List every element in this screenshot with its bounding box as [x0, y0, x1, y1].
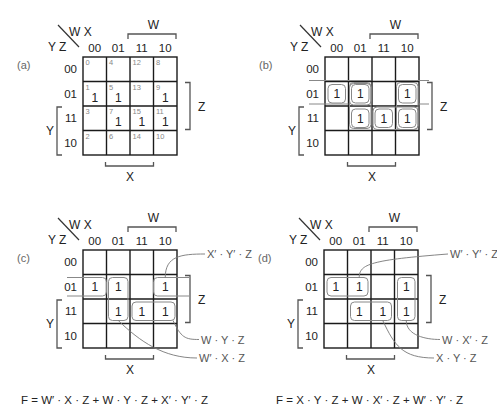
row-header: 11: [306, 305, 318, 317]
cell-value: 1: [91, 91, 98, 105]
term-label-w-y-z: W · Y · Z: [201, 334, 245, 346]
row-header: 11: [307, 112, 319, 124]
z-label: Z: [440, 100, 447, 114]
row-header: 01: [305, 281, 318, 293]
term-label-w-xp-z: W · X′ · Z: [442, 334, 488, 346]
z-label: Z: [198, 293, 205, 307]
cell-value: 1: [138, 305, 145, 319]
x-label: X: [368, 170, 376, 184]
cell-value: 1: [356, 305, 363, 319]
cell-value: 1: [357, 112, 364, 126]
row-header: 00: [305, 256, 318, 268]
boolean-equation: F = X · Y · Z + W · X′ · Z + W′ · Y′ · Z: [276, 394, 463, 406]
term-label-xp-yp-z: X′ · Y′ · Z: [207, 248, 252, 260]
row-header: 01: [64, 88, 77, 100]
x-bracket: [347, 355, 395, 359]
w-bracket: [370, 34, 418, 39]
cell-value: 1: [357, 87, 364, 101]
cell-value: 1: [332, 280, 339, 294]
y-bracket: [298, 300, 303, 348]
column-header: 00: [329, 235, 342, 247]
column-header: 01: [353, 235, 366, 247]
cell-value: 1: [115, 115, 122, 129]
leader-line: [383, 321, 434, 359]
cell-value: 1: [115, 305, 122, 319]
cell-value: 1: [356, 280, 363, 294]
cell-index: 3: [86, 107, 90, 116]
karnaugh-map-figure: (a)W XY Z0001111000011110041281513937151…: [0, 0, 497, 406]
column-header: 01: [112, 235, 125, 247]
cell-value: 1: [333, 87, 340, 101]
row-variables-label: Y Z: [290, 40, 308, 54]
row-header: 11: [65, 112, 77, 124]
cell-index: 12: [133, 58, 141, 67]
column-header: 01: [112, 42, 125, 54]
kmap-panel-c: (c)W XY Z0001111000011110111111WZYXX′ · …: [17, 211, 252, 406]
z-bracket: [185, 83, 190, 130]
cell-value: 1: [379, 305, 386, 319]
z-label: Z: [439, 293, 446, 307]
cell-index: 0: [86, 58, 90, 67]
term-label-wp-x-z: W′ · X · Z: [199, 352, 245, 364]
column-variables-label: W X: [69, 218, 92, 232]
w-label: W: [148, 211, 160, 225]
row-header: 00: [306, 63, 319, 75]
cell-index: 8: [156, 58, 160, 67]
w-bracket: [369, 227, 417, 232]
column-header: 00: [88, 235, 101, 247]
row-variables-label: Y Z: [48, 233, 66, 247]
row-header: 01: [64, 281, 77, 293]
w-bracket: [128, 34, 176, 39]
kmap-panel-b: (b)W XY Z0001111000011110111111WZYX: [259, 18, 447, 184]
boolean-equation: F = W′ · X · Z + W · Y · Z + X′ · Y′ · Z: [21, 394, 208, 406]
cell-index: 1: [86, 83, 90, 92]
cell-index: 10: [156, 132, 164, 141]
group-xp-yp-z-right: [154, 278, 190, 297]
cell-value: 1: [162, 305, 169, 319]
cell-index: 6: [109, 132, 113, 141]
row-header: 10: [64, 330, 77, 342]
x-bracket: [348, 162, 396, 166]
column-header: 00: [330, 42, 343, 54]
z-label: Z: [198, 100, 205, 114]
y-bracket: [57, 300, 62, 348]
cell-index: 2: [86, 132, 90, 141]
x-bracket: [106, 162, 154, 166]
column-header: 11: [136, 42, 148, 54]
panel-label: (b): [259, 59, 272, 71]
cell-index: 14: [133, 132, 141, 141]
cell-value: 1: [138, 115, 145, 129]
cell-index: 7: [109, 107, 113, 116]
y-label: Y: [287, 317, 295, 331]
row-header: 10: [306, 137, 319, 149]
x-label: X: [126, 363, 134, 377]
z-bracket: [427, 83, 432, 130]
panel-label: (d): [258, 252, 271, 264]
cell-value: 1: [403, 305, 410, 319]
term-label-wp-yp-z: W′ · Y′ · Z: [450, 248, 497, 260]
z-bracket: [185, 276, 190, 323]
column-variables-label: W X: [310, 218, 333, 232]
w-label: W: [148, 18, 160, 32]
row-header: 01: [306, 88, 319, 100]
cell-index: 13: [133, 83, 141, 92]
column-header: 10: [401, 42, 414, 54]
column-variables-label: W X: [311, 25, 334, 39]
y-label: Y: [46, 124, 54, 138]
cell-index: 4: [109, 58, 113, 67]
row-header: 10: [64, 137, 77, 149]
panel-label: (a): [17, 59, 30, 71]
column-header: 10: [400, 235, 413, 247]
cell-value: 1: [115, 91, 122, 105]
column-header: 00: [88, 42, 101, 54]
panel-label: (c): [17, 252, 30, 264]
kmap-panel-a: (a)W XY Z0001111000011110041281513937151…: [17, 18, 205, 184]
column-header: 10: [159, 235, 172, 247]
x-bracket: [106, 355, 154, 359]
cell-index: 5: [109, 83, 113, 92]
term-label-x-y-z: X · Y · Z: [436, 352, 477, 364]
w-label: W: [390, 18, 402, 32]
cell-value: 1: [404, 112, 411, 126]
z-bracket: [426, 276, 431, 323]
cell-value: 1: [404, 87, 411, 101]
